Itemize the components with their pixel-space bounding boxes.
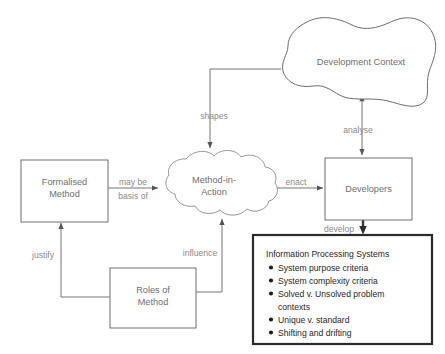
node-formalised-method[interactable]: Formalised Method [21, 160, 108, 222]
list-item: Shifting and drifting [269, 328, 352, 338]
node-roles-of-method[interactable]: Roles of Method [110, 268, 196, 328]
formalised-method-label-line2: Method [49, 189, 80, 199]
info-item-line1: System purpose criteria [278, 263, 368, 273]
edge-label-may-be-basis-of-line2: basis of [118, 191, 148, 201]
list-item: System complexity criteria [269, 276, 378, 286]
edge-shapes [210, 69, 281, 148]
node-developers[interactable]: Developers [325, 158, 412, 220]
edge-label-shapes: shapes [200, 111, 228, 121]
list-item: System purpose criteria [269, 263, 369, 273]
edge-label-develop: develop [324, 224, 354, 234]
developers-label: Developers [345, 184, 392, 194]
info-item-line1: Unique v. standard [278, 315, 350, 325]
info-item-line1: System complexity criteria [278, 276, 378, 286]
list-item: Unique v. standard [269, 315, 350, 325]
edge-label-justify: justify [31, 250, 55, 260]
info-item-line1: Shifting and drifting [278, 328, 352, 338]
node-method-in-action[interactable]: Method-in- Action [166, 150, 278, 215]
info-item-line1: Solved v. Unsolved problem [278, 289, 384, 299]
roles-of-method-label-line1: Roles of [136, 285, 170, 295]
method-in-action-label-line1: Method-in- [192, 175, 236, 185]
diagram-svg: Development Context Method-in- Action Fo… [0, 0, 445, 354]
info-item-line2: contexts [278, 302, 310, 312]
diagram-canvas: Development Context Method-in- Action Fo… [0, 0, 445, 354]
edge-justify [61, 223, 110, 297]
node-information-processing-systems[interactable]: Information Processing Systems System pu… [253, 235, 432, 344]
development-context-label: Development Context [317, 57, 406, 67]
roles-of-method-label-line2: Method [138, 297, 169, 307]
edge-label-analyse: analyse [343, 125, 373, 135]
edge-label-may-be-basis-of-line1: may be [119, 177, 147, 187]
method-in-action-label-line2: Action [201, 187, 227, 197]
formalised-method-label-line1: Formalised [42, 177, 87, 187]
info-box-title: Information Processing Systems [266, 249, 389, 259]
node-development-context[interactable]: Development Context [282, 18, 435, 107]
edge-label-influence: influence [183, 248, 218, 258]
edge-label-enact: enact [285, 177, 307, 187]
